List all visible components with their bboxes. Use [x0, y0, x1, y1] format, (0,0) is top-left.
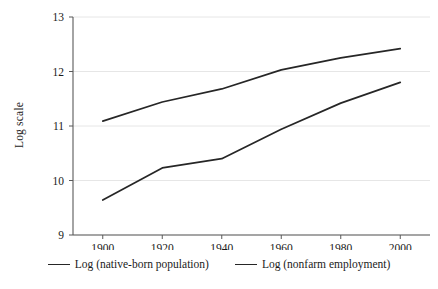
- y-tick-label: 11: [53, 120, 64, 132]
- legend-line-swatch-icon: [48, 264, 70, 265]
- x-axis-tick-labels: 190019201940196019802000: [91, 242, 412, 250]
- y-tick-label: 9: [58, 229, 64, 241]
- plot-area: 910111213 190019201940196019802000: [0, 0, 438, 250]
- data-series-line: [103, 49, 401, 121]
- x-tick-label: 1900: [91, 242, 114, 250]
- x-tick-label: 1980: [329, 242, 352, 250]
- data-series-line: [103, 82, 401, 200]
- legend-label: Log (native-born population): [75, 258, 209, 270]
- x-axis-ticks-group: [103, 235, 401, 239]
- x-tick-label: 2000: [389, 242, 412, 250]
- x-tick-label: 1960: [270, 242, 293, 250]
- y-axis-tick-labels: 910111213: [53, 11, 65, 241]
- y-tick-label: 10: [53, 175, 65, 187]
- legend-item-nonfarm-employment: Log (nonfarm employment): [235, 258, 390, 270]
- y-tick-label: 12: [53, 66, 65, 78]
- y-axis-ticks-group: [69, 17, 73, 235]
- legend-label: Log (nonfarm employment): [262, 258, 390, 270]
- legend-item-native-born-population: Log (native-born population): [48, 258, 209, 270]
- legend-line-swatch-icon: [235, 264, 257, 265]
- gridlines-group: [73, 17, 430, 235]
- chart-legend: Log (native-born population) Log (nonfar…: [0, 258, 438, 270]
- x-tick-label: 1940: [210, 242, 233, 250]
- line-chart-figure: 910111213 190019201940196019802000 Log s…: [0, 0, 438, 289]
- x-tick-label: 1920: [151, 242, 174, 250]
- chart-page: 910111213 190019201940196019802000 Log s…: [0, 0, 438, 289]
- y-tick-label: 13: [53, 11, 65, 23]
